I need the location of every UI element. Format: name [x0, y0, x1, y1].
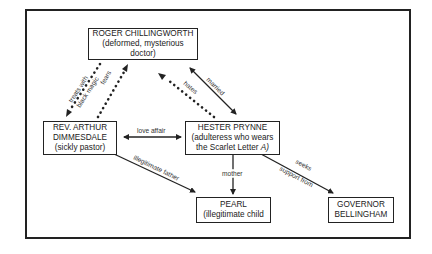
- edge-label: seeks: [295, 158, 314, 173]
- node-description: the Scarlet Letter A): [186, 143, 279, 153]
- svg-text:illegitimate father: illegitimate father: [132, 154, 181, 183]
- edge-label: love affair: [137, 127, 166, 134]
- node-description: (deformed, mysterious: [89, 39, 197, 49]
- node-governor-bellingham: GOVERNOR BELLINGHAM: [328, 197, 394, 223]
- edge-seeks-support-from: seeks support from: [261, 154, 333, 193]
- arrowhead-icon: [158, 73, 166, 80]
- edge-illegitimate-father: illegitimate father: [114, 154, 195, 192]
- edge-treats-with-black-magic: treats with black magic: [66, 64, 101, 117]
- node-roger-chillingworth: ROGER CHILLINGWORTH (deformed, mysteriou…: [88, 28, 198, 60]
- node-name: BELLINGHAM: [329, 210, 393, 220]
- node-name: ROGER CHILLINGWORTH: [89, 29, 197, 39]
- edge-label: fears: [99, 69, 113, 86]
- svg-text:hates: hates: [182, 79, 199, 95]
- node-description: doctor): [89, 49, 197, 59]
- edge-label: mother: [222, 170, 243, 177]
- node-hester-prynne: HESTER PRYNNE (adulteress who wears the …: [185, 121, 280, 155]
- edge-love-affair: love affair: [124, 127, 181, 137]
- node-description: (illegitimate child: [197, 210, 270, 220]
- arrowhead-icon: [122, 64, 128, 72]
- node-name: DIMMESDALE: [44, 133, 116, 143]
- svg-text:mother: mother: [222, 170, 243, 177]
- node-description: (adulteress who wears: [186, 133, 279, 143]
- edge-label: hates: [182, 79, 199, 95]
- arrowhead-icon: [66, 109, 72, 117]
- node-arthur-dimmesdale: REV. ARTHUR DIMMESDALE (sickly pastor): [43, 121, 117, 155]
- edge-label: illegitimate father: [132, 154, 181, 183]
- node-name: PEARL: [197, 200, 270, 210]
- edge-mother: mother mother: [222, 154, 243, 194]
- svg-text:fears: fears: [99, 69, 113, 86]
- svg-text:love affair: love affair: [137, 127, 166, 134]
- node-name: GOVERNOR: [329, 200, 393, 210]
- svg-text:seeks: seeks: [295, 158, 314, 173]
- edge-fears: fears: [98, 64, 128, 117]
- node-name: HESTER PRYNNE: [186, 123, 279, 133]
- node-description: (sickly pastor): [44, 143, 116, 153]
- node-pearl: PEARL (illegitimate child: [196, 197, 271, 223]
- node-name: REV. ARTHUR: [44, 123, 116, 133]
